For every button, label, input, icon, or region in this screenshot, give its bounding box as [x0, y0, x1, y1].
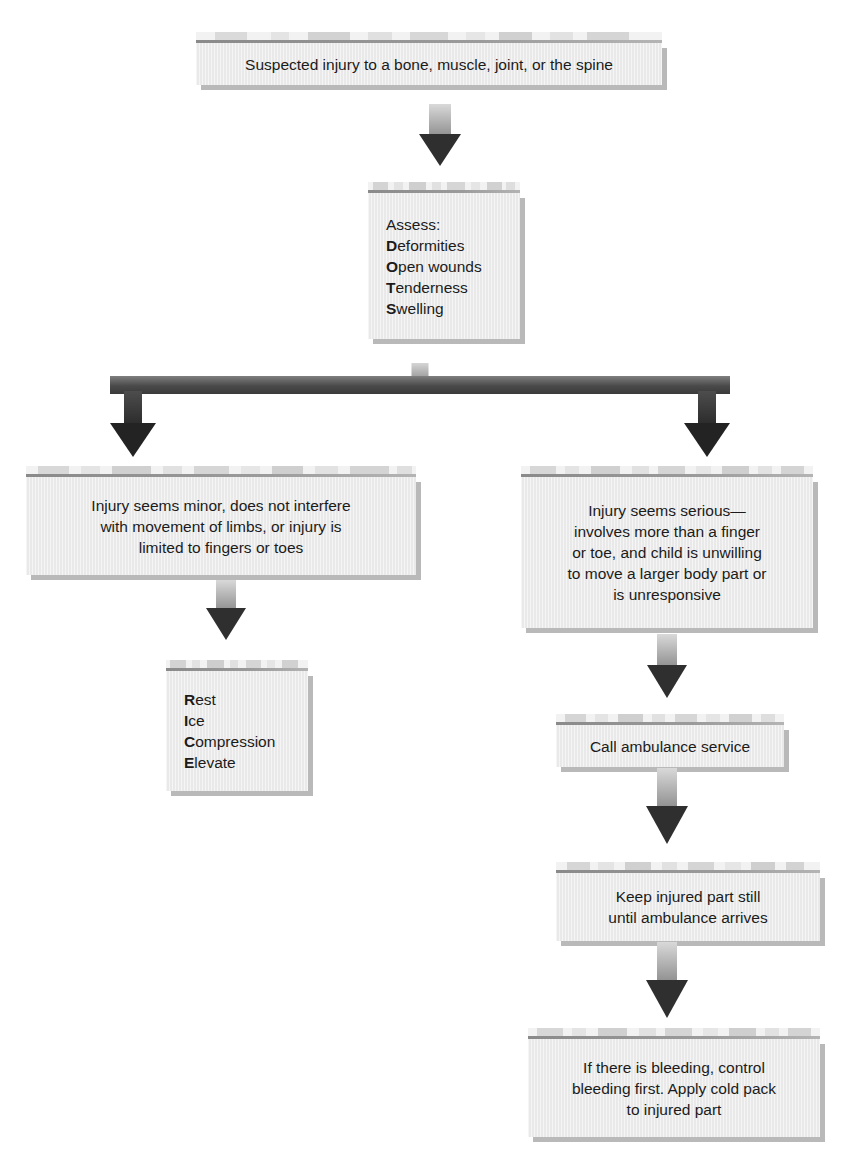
- node-rice: Rest Ice Compression Elevate: [166, 660, 308, 791]
- node-text-rice: Rest Ice Compression Elevate: [166, 671, 308, 791]
- line: involves more than a finger: [533, 521, 801, 542]
- rice-item-rest: ce: [188, 712, 204, 729]
- line: or toe, and child is unwilling: [533, 542, 801, 563]
- assess-item-rest: pen wounds: [398, 258, 482, 275]
- node-call-ambulance: Call ambulance service: [556, 714, 784, 767]
- rice-item-initial: E: [184, 754, 194, 771]
- line: Injury seems minor, does not interfere: [38, 495, 404, 516]
- splitter-leg-right: [698, 391, 716, 425]
- line: If there is bleeding, control: [540, 1057, 808, 1078]
- flowchart-canvas: Suspected injury to a bone, muscle, join…: [0, 0, 865, 1169]
- rice-item-rest: ompression: [195, 733, 275, 750]
- line: Injury seems serious—: [533, 500, 801, 521]
- node-suspected-injury: Suspected injury to a bone, muscle, join…: [196, 32, 662, 85]
- box-top-band: [556, 862, 820, 873]
- arrow-minor-to-rice: [206, 580, 246, 642]
- rice-item: Rest: [184, 689, 298, 710]
- box-top-band: [368, 182, 520, 193]
- box-top-band: [26, 466, 416, 477]
- node-injury-serious: Injury seems serious— involves more than…: [521, 466, 813, 628]
- splitter-arrowhead-right: [684, 423, 730, 457]
- line: Keep injured part still: [568, 886, 808, 907]
- assess-item-rest: welling: [396, 300, 443, 317]
- assess-heading: Assess:: [386, 214, 510, 235]
- line: to move a larger body part or: [533, 563, 801, 584]
- assess-item-rest: enderness: [395, 279, 467, 296]
- splitter-bar: [110, 376, 730, 394]
- assess-item-initial: S: [386, 300, 396, 317]
- box-top-band: [528, 1028, 820, 1039]
- assess-item-initial: O: [386, 258, 398, 275]
- node-text-call-ambulance: Call ambulance service: [556, 725, 784, 767]
- branch-splitter: [110, 363, 730, 471]
- rice-item-initial: R: [184, 691, 195, 708]
- arrow-start-to-assess: [419, 104, 461, 166]
- rice-item: Compression: [184, 731, 298, 752]
- node-control-bleeding: If there is bleeding, control bleeding f…: [528, 1028, 820, 1137]
- box-top-band: [196, 32, 662, 43]
- rice-item-rest: est: [195, 691, 216, 708]
- splitter-arrowhead-left: [110, 423, 156, 457]
- line: bleeding first. Apply cold pack: [540, 1078, 808, 1099]
- text: Call ambulance service: [568, 736, 772, 757]
- node-assess-dots: Assess: Deformities Open wounds Tenderne…: [368, 182, 520, 339]
- line: to injured part: [540, 1099, 808, 1120]
- node-text-control-bleeding: If there is bleeding, control bleeding f…: [528, 1039, 820, 1137]
- assess-item: Deformities: [386, 235, 510, 256]
- line: limited to fingers or toes: [38, 537, 404, 558]
- box-top-band: [166, 660, 308, 671]
- node-text-assess-dots: Assess: Deformities Open wounds Tenderne…: [368, 193, 520, 339]
- rice-item: Ice: [184, 710, 298, 731]
- rice-item-initial: C: [184, 733, 195, 750]
- arrow-serious-to-call: [647, 634, 687, 700]
- arrow-keep-still-to-bleeding: [647, 942, 687, 1020]
- rice-item: Elevate: [184, 752, 298, 773]
- assess-item-initial: D: [386, 237, 397, 254]
- rice-item-rest: levate: [194, 754, 235, 771]
- node-text-injury-serious: Injury seems serious— involves more than…: [521, 477, 813, 628]
- assess-item: Open wounds: [386, 256, 510, 277]
- node-text-injury-minor: Injury seems minor, does not interfere w…: [26, 477, 416, 575]
- splitter-leg-left: [124, 391, 142, 425]
- node-text-suspected-injury: Suspected injury to a bone, muscle, join…: [196, 43, 662, 85]
- assess-item: Tenderness: [386, 277, 510, 298]
- line: is unresponsive: [533, 584, 801, 605]
- line: with movement of limbs, or injury is: [38, 516, 404, 537]
- box-top-band: [556, 714, 784, 725]
- arrow-call-to-keep-still: [647, 768, 687, 846]
- node-injury-minor: Injury seems minor, does not interfere w…: [26, 466, 416, 575]
- assess-item: Swelling: [386, 298, 510, 319]
- text: Suspected injury to a bone, muscle, join…: [208, 54, 650, 75]
- assess-item-rest: eformities: [397, 237, 464, 254]
- box-top-band: [521, 466, 813, 477]
- line: until ambulance arrives: [568, 907, 808, 928]
- node-text-keep-still: Keep injured part still until ambulance …: [556, 873, 820, 941]
- node-keep-still: Keep injured part still until ambulance …: [556, 862, 820, 941]
